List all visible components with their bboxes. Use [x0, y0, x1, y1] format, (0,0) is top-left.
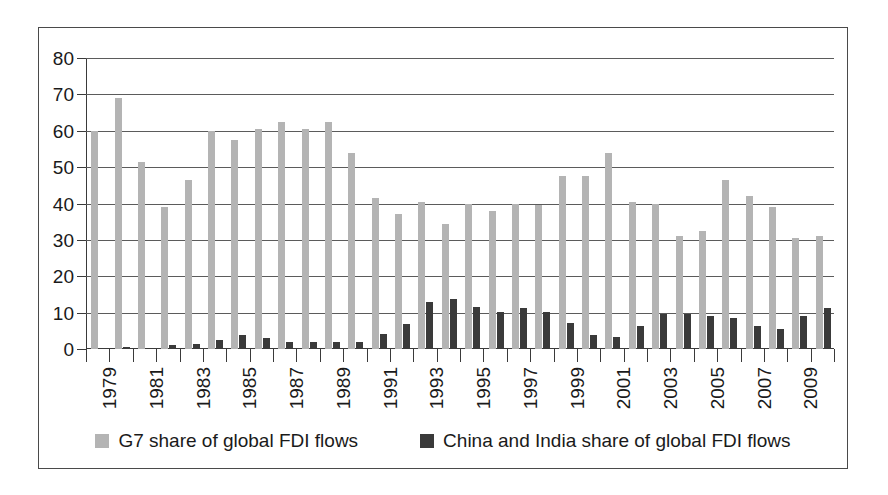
bar-g7-share[interactable] [138, 162, 145, 349]
bar-group[interactable] [699, 58, 722, 349]
category-tick-mark [86, 349, 87, 362]
bar-group[interactable] [559, 58, 582, 349]
bar-group[interactable] [278, 58, 301, 349]
bar-china-india-share[interactable] [497, 312, 504, 349]
bar-group[interactable] [676, 58, 699, 349]
bar-g7-share[interactable] [816, 236, 823, 349]
bar-g7-share[interactable] [442, 224, 449, 349]
bar-group[interactable] [418, 58, 441, 349]
bar-g7-share[interactable] [746, 196, 753, 349]
bar-china-india-share[interactable] [824, 308, 831, 349]
bar-china-india-share[interactable] [426, 302, 433, 349]
bar-china-india-share[interactable] [684, 314, 691, 349]
bar-group[interactable] [395, 58, 418, 349]
bar-g7-share[interactable] [372, 198, 379, 349]
bar-g7-share[interactable] [278, 122, 285, 349]
bar-group[interactable] [605, 58, 628, 349]
bar-g7-share[interactable] [559, 176, 566, 349]
bar-g7-share[interactable] [161, 207, 168, 349]
bar-group[interactable] [91, 58, 114, 349]
bar-china-india-share[interactable] [216, 340, 223, 349]
bar-group[interactable] [652, 58, 675, 349]
bar-group[interactable] [746, 58, 769, 349]
bar-china-india-share[interactable] [777, 329, 784, 349]
bar-group[interactable] [769, 58, 792, 349]
bar-china-india-share[interactable] [660, 314, 667, 349]
bar-g7-share[interactable] [605, 153, 612, 349]
bar-china-india-share[interactable] [403, 324, 410, 349]
bar-china-india-share[interactable] [800, 316, 807, 349]
bar-china-india-share[interactable] [754, 326, 761, 349]
bar-group[interactable] [231, 58, 254, 349]
bar-china-india-share[interactable] [473, 307, 480, 349]
bar-g7-share[interactable] [255, 129, 262, 349]
bar-g7-share[interactable] [512, 204, 519, 350]
bar-group[interactable] [465, 58, 488, 349]
category-tick-mark [670, 349, 671, 362]
bar-group[interactable] [792, 58, 815, 349]
bar-g7-share[interactable] [676, 236, 683, 349]
bar-china-india-share[interactable] [590, 335, 597, 349]
bar-china-india-share[interactable] [613, 337, 620, 349]
bar-china-india-share[interactable] [169, 345, 176, 349]
bar-china-india-share[interactable] [123, 347, 130, 349]
bar-g7-share[interactable] [722, 180, 729, 349]
bar-group[interactable] [722, 58, 745, 349]
bar-china-india-share[interactable] [380, 334, 387, 349]
bar-group[interactable] [302, 58, 325, 349]
bar-g7-share[interactable] [208, 131, 215, 349]
bar-china-india-share[interactable] [146, 348, 153, 349]
bar-china-india-share[interactable] [707, 316, 714, 349]
bar-g7-share[interactable] [629, 202, 636, 349]
bar-china-india-share[interactable] [286, 342, 293, 349]
legend-entry[interactable]: China and India share of global FDI flow… [420, 431, 790, 450]
bar-group[interactable] [535, 58, 558, 349]
legend-entry[interactable]: G7 share of global FDI flows [95, 431, 358, 450]
bar-group[interactable] [348, 58, 371, 349]
bar-g7-share[interactable] [769, 207, 776, 349]
bar-g7-share[interactable] [652, 204, 659, 350]
bar-g7-share[interactable] [418, 202, 425, 349]
bar-g7-share[interactable] [91, 131, 98, 349]
bar-g7-share[interactable] [535, 205, 542, 349]
bar-group[interactable] [161, 58, 184, 349]
bar-g7-share[interactable] [395, 214, 402, 349]
bar-group[interactable] [138, 58, 161, 349]
bar-group[interactable] [185, 58, 208, 349]
bar-group[interactable] [489, 58, 512, 349]
bar-g7-share[interactable] [185, 180, 192, 349]
bar-g7-share[interactable] [699, 231, 706, 349]
bar-g7-share[interactable] [582, 176, 589, 349]
bar-group[interactable] [208, 58, 231, 349]
bar-group[interactable] [629, 58, 652, 349]
bar-china-india-share[interactable] [99, 348, 106, 349]
bar-group[interactable] [442, 58, 465, 349]
bar-g7-share[interactable] [115, 98, 122, 349]
bar-china-india-share[interactable] [637, 326, 644, 349]
bar-china-india-share[interactable] [193, 344, 200, 349]
bar-china-india-share[interactable] [310, 342, 317, 349]
bar-group[interactable] [372, 58, 395, 349]
bar-china-india-share[interactable] [730, 318, 737, 349]
bar-group[interactable] [115, 58, 138, 349]
bar-china-india-share[interactable] [450, 299, 457, 349]
bar-china-india-share[interactable] [567, 323, 574, 349]
bar-group[interactable] [816, 58, 839, 349]
bar-g7-share[interactable] [348, 153, 355, 349]
bar-china-india-share[interactable] [263, 338, 270, 349]
bar-g7-share[interactable] [325, 122, 332, 349]
bar-g7-share[interactable] [302, 129, 309, 349]
bar-group[interactable] [512, 58, 535, 349]
bar-g7-share[interactable] [489, 211, 496, 349]
bar-china-india-share[interactable] [520, 308, 527, 349]
bar-g7-share[interactable] [465, 204, 472, 350]
bar-g7-share[interactable] [792, 238, 799, 349]
bar-china-india-share[interactable] [239, 335, 246, 349]
bar-group[interactable] [325, 58, 348, 349]
bar-group[interactable] [582, 58, 605, 349]
bar-china-india-share[interactable] [543, 312, 550, 349]
bar-group[interactable] [255, 58, 278, 349]
bar-china-india-share[interactable] [333, 342, 340, 349]
bar-g7-share[interactable] [231, 140, 238, 349]
bar-china-india-share[interactable] [356, 342, 363, 349]
